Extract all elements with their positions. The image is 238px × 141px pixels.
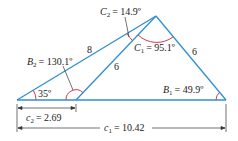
label-c1: c1= 10.42 [104,122,145,135]
label-c2: c2= 2.69 [26,112,62,125]
angle-B1-arc [216,92,220,100]
label-side-8: 8 [87,44,92,55]
label-side-6-inner: 6 [114,61,119,72]
label-B2: B2= 130.1º [27,56,72,69]
label-angle-A: 35º [38,88,51,99]
label-B1: B1= 49.9º [163,84,203,97]
angle-C2-arc [127,34,133,41]
side-6-inner-line [76,16,156,100]
label-C2: C2= 14.9º [100,6,141,19]
label-side-6-right: 6 [192,46,197,57]
label-C1: C1= 95.1º [134,42,175,55]
ambiguous-case-triangle-diagram: C2= 14.9º C1= 95.1º B2= 130.1º B1= 49.9º… [0,0,238,141]
angle-A-arc [33,90,36,100]
